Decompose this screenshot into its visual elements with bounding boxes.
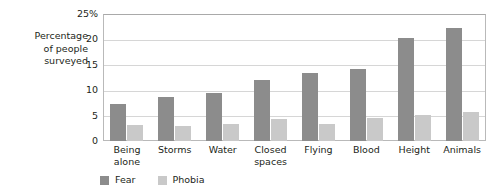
bar-fear — [302, 73, 318, 141]
x-axis-tick-label: Height — [390, 144, 438, 156]
legend-item-phobia[interactable]: Phobia — [158, 175, 205, 185]
bar-group — [199, 14, 247, 141]
bar-phobia — [415, 115, 431, 141]
bars-layer — [103, 14, 486, 141]
x-axis-tick-label: Being alone — [103, 144, 151, 167]
bar-group — [390, 14, 438, 141]
legend-swatch-icon — [100, 176, 109, 185]
x-axis-tick-label: Animals — [438, 144, 486, 156]
bar-group — [151, 14, 199, 141]
bar-group — [438, 14, 486, 141]
bar-fear — [254, 80, 270, 141]
bar-group — [103, 14, 151, 141]
legend-item-fear[interactable]: Fear — [100, 175, 136, 185]
bar-fear — [398, 38, 414, 141]
legend-label: Fear — [115, 175, 136, 185]
bar-phobia — [175, 126, 191, 141]
bar-fear — [350, 69, 366, 141]
x-axis-tick-label: Blood — [342, 144, 390, 156]
legend-swatch-icon — [158, 176, 167, 185]
bar-group — [295, 14, 343, 141]
bar-phobia — [463, 112, 479, 141]
x-axis-tick-label: Flying — [295, 144, 343, 156]
y-axis-tick-labels: 0510152025% — [54, 14, 98, 141]
bar-chart: Percentage of people surveyed 0510152025… — [0, 0, 496, 195]
bar-fear — [206, 93, 222, 141]
x-axis-tick-labels: Being aloneStormsWaterClosed spacesFlyin… — [103, 144, 486, 170]
bar-phobia — [223, 124, 239, 141]
x-axis-tick-label: Closed spaces — [247, 144, 295, 167]
y-axis-tick-label: 5 — [58, 111, 98, 121]
bar-fear — [446, 28, 462, 141]
bar-phobia — [271, 119, 287, 141]
legend-label: Phobia — [173, 175, 205, 185]
chart-legend: FearPhobia — [100, 173, 205, 187]
y-axis-tick-label: 25% — [58, 9, 98, 19]
y-axis-tick-label: 15 — [58, 60, 98, 70]
bar-group — [247, 14, 295, 141]
x-axis-tick-label: Storms — [151, 144, 199, 156]
bar-group — [342, 14, 390, 141]
bar-fear — [110, 104, 126, 141]
bar-phobia — [127, 125, 143, 141]
y-axis-tick-label: 0 — [58, 136, 98, 146]
x-axis-tick-label: Water — [199, 144, 247, 156]
bar-phobia — [367, 118, 383, 141]
bar-phobia — [319, 124, 335, 141]
bar-fear — [158, 97, 174, 141]
y-axis-tick-label: 20 — [58, 34, 98, 44]
y-axis-tick-label: 10 — [58, 85, 98, 95]
